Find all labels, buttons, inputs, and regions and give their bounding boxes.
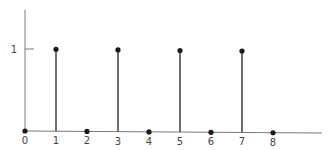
stem-chart: 012345678 1 xyxy=(0,0,336,150)
x-tick-label: 6 xyxy=(208,136,214,147)
x-tick-label: 4 xyxy=(146,136,152,147)
y-tick-labels: 1 xyxy=(11,44,34,55)
stem-marker xyxy=(115,47,120,52)
x-axis xyxy=(25,131,322,133)
y-tick-label: 1 xyxy=(11,44,17,55)
x-tick-label: 8 xyxy=(270,137,276,148)
stem-marker xyxy=(84,129,89,134)
x-tick-label: 1 xyxy=(53,135,59,146)
stems xyxy=(22,47,275,136)
stem-marker xyxy=(239,49,244,54)
stem-marker xyxy=(53,47,58,52)
axes xyxy=(25,10,322,133)
x-tick-label: 0 xyxy=(22,135,28,146)
stem-marker xyxy=(22,128,27,133)
stem-marker xyxy=(208,130,213,135)
x-tick-label: 3 xyxy=(115,136,121,147)
x-tick-label: 5 xyxy=(177,136,183,147)
x-tick-labels: 012345678 xyxy=(22,135,276,148)
stem-marker xyxy=(177,48,182,53)
x-tick-label: 7 xyxy=(239,136,245,147)
stem-marker xyxy=(270,130,275,135)
stem-marker xyxy=(146,129,151,134)
x-tick-label: 2 xyxy=(84,135,90,146)
